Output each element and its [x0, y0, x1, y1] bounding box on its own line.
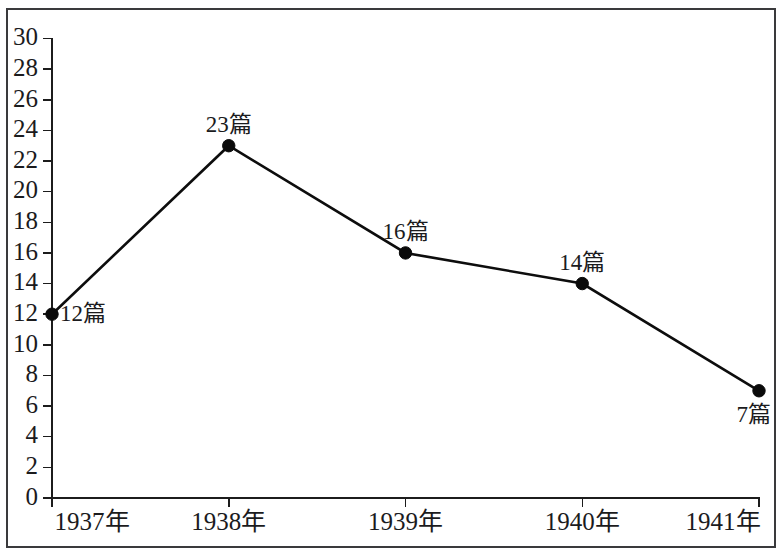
x-axis-tick-label: 1940年	[545, 508, 620, 535]
y-axis-tick-label: 28	[13, 54, 38, 81]
y-axis-tick-label: 10	[13, 330, 38, 357]
data-point-labels: 12篇23篇16篇14篇7篇	[60, 112, 771, 427]
x-axis-tick-label: 1938年	[191, 508, 266, 535]
y-axis-tick-label: 4	[26, 421, 39, 448]
data-point-label: 16篇	[383, 219, 429, 244]
data-point-marker	[223, 140, 235, 152]
x-axis-tick-label: 1937年	[55, 508, 130, 535]
y-axis-tick-label: 24	[13, 115, 39, 142]
x-axis-tick-label: 1939年	[368, 508, 443, 535]
x-axis-group: 1937年1938年1939年1940年1941年	[52, 498, 761, 535]
data-point-label: 23篇	[206, 112, 252, 137]
y-axis-tick-label: 12	[13, 299, 38, 326]
y-axis-tick-label: 14	[13, 268, 39, 295]
y-axis-tick-label: 16	[13, 238, 38, 265]
y-axis-tick-label: 18	[13, 207, 38, 234]
data-point-label: 12篇	[60, 301, 106, 326]
y-axis-tick-label: 6	[26, 391, 39, 418]
y-axis-tick-label: 0	[26, 483, 39, 510]
data-point-label: 7篇	[737, 402, 772, 427]
data-point-marker	[399, 247, 411, 259]
x-tick-group: 1937年1938年1939年1940年1941年	[52, 498, 761, 535]
data-point-marker	[576, 277, 588, 289]
y-axis-tick-label: 22	[13, 146, 38, 173]
series-line-path	[52, 146, 759, 391]
y-axis-tick-label: 26	[13, 85, 38, 112]
y-axis-tick-label: 20	[13, 176, 38, 203]
data-point-marker	[753, 385, 765, 397]
y-axis-tick-label: 30	[13, 23, 38, 50]
y-axis-group: 024681012141618202224262830	[13, 23, 52, 510]
data-point-marker	[46, 308, 58, 320]
x-axis-tick-label: 1941年	[686, 508, 761, 535]
y-axis-tick-label: 2	[26, 452, 39, 479]
data-point-markers	[46, 140, 765, 397]
data-series-group	[52, 146, 759, 391]
y-axis-tick-label: 8	[26, 360, 39, 387]
y-tick-group: 024681012141618202224262830	[13, 23, 52, 510]
data-point-label: 14篇	[559, 250, 605, 275]
